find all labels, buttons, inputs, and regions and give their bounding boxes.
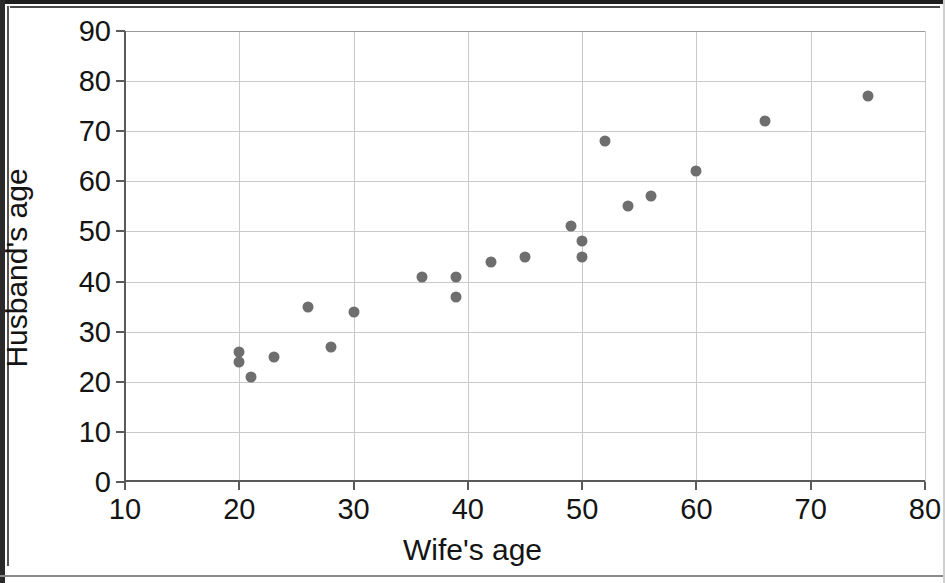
y-tick-10 xyxy=(116,431,125,433)
x-tick-10 xyxy=(124,482,126,490)
y-tick-label-40: 40 xyxy=(79,265,111,298)
y-tick-80 xyxy=(116,80,125,82)
x-tick-label-70: 70 xyxy=(795,493,827,526)
y-tick-60 xyxy=(116,180,125,182)
data-point xyxy=(451,291,462,302)
x-tick-80 xyxy=(924,482,926,490)
y-tick-20 xyxy=(116,381,125,383)
gridline-y-80 xyxy=(125,81,925,82)
data-point xyxy=(577,236,588,247)
gridline-y-60 xyxy=(125,181,925,182)
y-axis-line xyxy=(124,31,126,482)
figure-border-top xyxy=(0,0,945,4)
gridline-y-40 xyxy=(125,282,925,283)
figure-border-inner-top xyxy=(10,6,940,8)
data-point xyxy=(417,271,428,282)
gridline-x-60 xyxy=(696,31,697,482)
x-tick-label-30: 30 xyxy=(337,493,369,526)
y-tick-label-50: 50 xyxy=(79,215,111,248)
data-point xyxy=(862,91,873,102)
x-tick-70 xyxy=(810,482,812,490)
x-tick-label-80: 80 xyxy=(909,493,941,526)
data-point xyxy=(645,191,656,202)
y-tick-label-90: 90 xyxy=(79,15,111,48)
data-point xyxy=(565,221,576,232)
gridline-x-20 xyxy=(239,31,240,482)
y-tick-label-60: 60 xyxy=(79,165,111,198)
y-tick-label-20: 20 xyxy=(79,365,111,398)
data-point xyxy=(520,251,531,262)
figure-border-bottom xyxy=(0,575,945,577)
data-point xyxy=(451,271,462,282)
x-tick-50 xyxy=(581,482,583,490)
y-tick-70 xyxy=(116,130,125,132)
y-tick-label-10: 10 xyxy=(79,415,111,448)
y-tick-30 xyxy=(116,331,125,333)
gridline-y-50 xyxy=(125,231,925,232)
x-tick-label-10: 10 xyxy=(109,493,141,526)
x-tick-label-60: 60 xyxy=(680,493,712,526)
y-axis-title: Husband's age xyxy=(0,38,34,498)
plot-top-spine xyxy=(125,31,925,32)
x-tick-20 xyxy=(238,482,240,490)
x-tick-label-40: 40 xyxy=(452,493,484,526)
x-tick-30 xyxy=(353,482,355,490)
data-point xyxy=(325,341,336,352)
data-point xyxy=(302,301,313,312)
gridline-x-40 xyxy=(468,31,469,482)
x-tick-label-50: 50 xyxy=(566,493,598,526)
x-tick-60 xyxy=(695,482,697,490)
y-tick-label-30: 30 xyxy=(79,315,111,348)
gridline-x-30 xyxy=(354,31,355,482)
data-point xyxy=(268,351,279,362)
data-point xyxy=(691,166,702,177)
gridline-x-70 xyxy=(811,31,812,482)
gridline-y-30 xyxy=(125,332,925,333)
gridline-y-20 xyxy=(125,382,925,383)
y-tick-50 xyxy=(116,230,125,232)
data-point xyxy=(348,306,359,317)
gridline-y-70 xyxy=(125,131,925,132)
data-point xyxy=(485,256,496,267)
y-tick-label-80: 80 xyxy=(79,65,111,98)
x-tick-40 xyxy=(467,482,469,490)
y-tick-90 xyxy=(116,30,125,32)
x-axis-line xyxy=(125,480,925,482)
data-point xyxy=(577,251,588,262)
gridline-y-10 xyxy=(125,432,925,433)
data-point xyxy=(600,136,611,147)
data-point xyxy=(622,201,633,212)
plot-area: 0102030405060708090 1020304050607080 xyxy=(125,31,925,482)
gridline-x-80 xyxy=(925,31,926,482)
data-point xyxy=(245,371,256,382)
data-point xyxy=(234,356,245,367)
y-tick-label-70: 70 xyxy=(79,115,111,148)
data-point xyxy=(760,116,771,127)
y-tick-40 xyxy=(116,281,125,283)
chart-figure: 0102030405060708090 1020304050607080 Wif… xyxy=(0,0,945,583)
x-axis-title: Wife's age xyxy=(0,533,945,567)
x-tick-label-20: 20 xyxy=(223,493,255,526)
